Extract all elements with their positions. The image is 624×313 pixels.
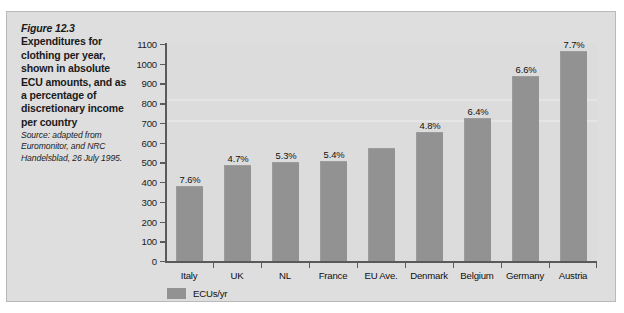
- y-axis-label: 600: [142, 137, 157, 148]
- bar: 7.7%: [560, 51, 587, 261]
- bar: 5.3%: [272, 162, 299, 261]
- bar: 7.6%: [176, 186, 203, 261]
- y-axis-tick: [160, 103, 165, 104]
- x-axis-tick: [357, 262, 358, 268]
- bar-value-label: 6.6%: [516, 64, 537, 75]
- y-axis-label: 100: [142, 236, 157, 247]
- y-axis-tick: [160, 83, 165, 84]
- x-axis-tick: [453, 262, 454, 268]
- legend-label-ecus: ECUs/yr: [193, 288, 227, 299]
- y-axis-tick: [160, 202, 165, 203]
- y-axis-label: 700: [142, 117, 157, 128]
- x-axis-tick: [501, 262, 502, 268]
- y-axis-tick: [160, 182, 165, 183]
- x-axis-label: Belgium: [460, 270, 493, 281]
- bar-value-label: 4.8%: [420, 120, 441, 131]
- x-axis-label: Denmark: [410, 270, 448, 281]
- y-axis-label: 500: [142, 157, 157, 168]
- legend-swatch-ecus: [167, 288, 186, 299]
- y-axis-label: 1000: [136, 58, 157, 69]
- bar-value-label: 7.6%: [180, 174, 201, 185]
- x-axis-tick: [261, 262, 262, 268]
- bar-value-label: 5.4%: [324, 149, 345, 160]
- y-axis-line: [165, 43, 167, 262]
- x-axis-label: Germany: [506, 270, 544, 281]
- bar: [368, 148, 395, 261]
- y-axis-label: 400: [142, 177, 157, 188]
- y-axis-tick: [160, 222, 165, 223]
- x-axis-line: [165, 261, 597, 263]
- bar: 4.8%: [416, 132, 443, 261]
- y-axis-label: 300: [142, 196, 157, 207]
- figure-root: Figure 12.3 Expenditures for clothing pe…: [0, 0, 624, 313]
- y-axis-label: 800: [142, 98, 157, 109]
- bar: 6.4%: [464, 118, 491, 261]
- y-axis-tick: [160, 241, 165, 242]
- chart-legend: ECUs/yr: [167, 288, 227, 299]
- bar-value-label: 5.3%: [276, 150, 297, 161]
- bar-value-label: 4.7%: [228, 153, 249, 164]
- y-axis-label: 900: [142, 78, 157, 89]
- y-axis-label: 1100: [137, 39, 157, 50]
- chart-plot-area: 010020030040050060070080090010001100 7.6…: [165, 44, 597, 261]
- bar-value-label: 7.7%: [564, 39, 585, 50]
- y-axis-tick: [160, 143, 165, 144]
- x-axis-label: EU Ave.: [364, 270, 397, 281]
- x-axis-tick: [405, 262, 406, 268]
- x-axis-tick: [549, 262, 550, 268]
- y-axis-label: 200: [142, 216, 157, 227]
- x-axis-tick: [309, 262, 310, 268]
- x-axis-label: France: [319, 270, 348, 281]
- x-axis-label: NL: [279, 270, 291, 281]
- y-axis-tick: [160, 64, 165, 65]
- figure-caption-title: Figure 12.3 Expenditures for clothing pe…: [21, 22, 129, 129]
- x-axis-label: Italy: [181, 270, 198, 281]
- y-axis-tick: [160, 123, 165, 124]
- y-axis-tick: [160, 162, 165, 163]
- figure-panel: Figure 12.3 Expenditures for clothing pe…: [6, 11, 616, 302]
- bar: 4.7%: [224, 165, 251, 261]
- bar-value-label: 6.4%: [468, 106, 489, 117]
- bar: 5.4%: [320, 161, 347, 261]
- y-axis-tick: [160, 261, 165, 262]
- x-axis-end-tick: [596, 262, 597, 268]
- figure-number: Figure 12.3: [21, 22, 75, 34]
- bar: 6.6%: [512, 76, 539, 261]
- x-axis-tick: [213, 262, 214, 268]
- figure-title-text: Expenditures for clothing per year, show…: [21, 35, 126, 127]
- figure-caption: Figure 12.3 Expenditures for clothing pe…: [21, 22, 129, 164]
- x-axis-label: Austria: [559, 270, 587, 281]
- figure-source: Source: adapted from Euromonitor, and NR…: [21, 130, 129, 164]
- x-axis-label: UK: [231, 270, 244, 281]
- y-axis-label: 0: [152, 256, 157, 267]
- y-axis-tick: [160, 44, 165, 45]
